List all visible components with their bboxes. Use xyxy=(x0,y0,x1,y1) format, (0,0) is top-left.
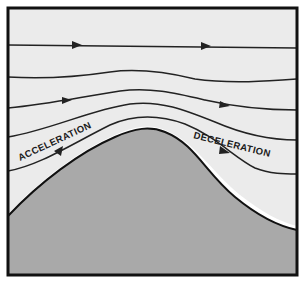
airflow-diagram: ACCELERATION DECELERATION xyxy=(0,0,307,285)
